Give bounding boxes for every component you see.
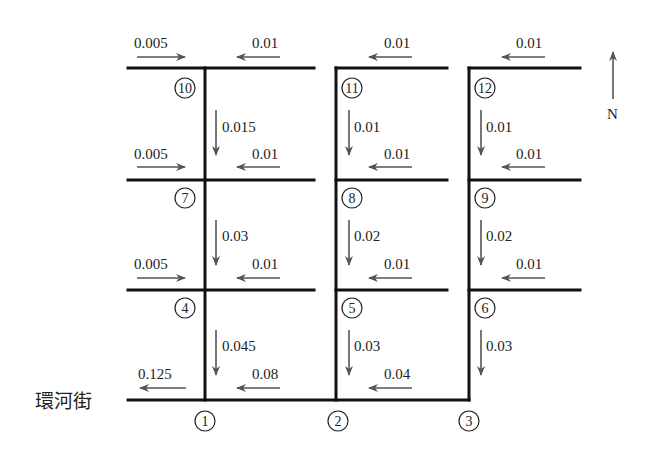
node-1: 1: [195, 411, 215, 431]
flow-label: 0.08: [252, 366, 278, 382]
node-2: 2: [328, 411, 348, 431]
flow-label: 0.015: [222, 119, 256, 135]
node-4: 4: [175, 298, 195, 318]
node-12: 12: [475, 78, 495, 98]
flow-label: 0.01: [384, 146, 410, 162]
flow-label: 0.01: [486, 119, 512, 135]
svg-text:6: 6: [482, 301, 489, 316]
flow-label: 0.01: [384, 256, 410, 272]
node-8: 8: [342, 188, 362, 208]
flow-label: 0.125: [138, 366, 172, 382]
flow-label: 0.03: [486, 338, 512, 354]
flow-label: 0.02: [486, 228, 512, 244]
flow-label: 0.01: [354, 119, 380, 135]
flow-label: 0.005: [134, 146, 168, 162]
node-11: 11: [342, 78, 362, 98]
flow-label: 0.03: [354, 338, 380, 354]
node-9: 9: [475, 188, 495, 208]
svg-text:1: 1: [202, 414, 209, 429]
flow-label: 0.01: [516, 256, 542, 272]
flow-label: 0.005: [134, 35, 168, 51]
node-10: 10: [175, 78, 195, 98]
svg-text:8: 8: [349, 191, 356, 206]
node-7: 7: [175, 188, 195, 208]
street-name-label: 環河街: [35, 390, 92, 412]
flow-label: 0.01: [384, 35, 410, 51]
flow-label: 0.01: [252, 35, 278, 51]
flow-label: 0.02: [354, 228, 380, 244]
flow-label: 0.01: [252, 256, 278, 272]
node-3: 3: [459, 411, 479, 431]
flow-label: 0.045: [222, 338, 256, 354]
node-6: 6: [475, 298, 495, 318]
node-5: 5: [342, 298, 362, 318]
svg-text:2: 2: [335, 414, 342, 429]
svg-text:5: 5: [349, 301, 356, 316]
flow-label: 0.005: [134, 256, 168, 272]
svg-text:9: 9: [482, 191, 489, 206]
svg-text:10: 10: [178, 81, 192, 96]
street-network-diagram: 0.005 0.01 0.01 0.01 0.015 0.01 0.01 0.0…: [0, 0, 650, 461]
north-arrow: N: [607, 52, 618, 122]
svg-text:12: 12: [478, 81, 492, 96]
flow-label: 0.01: [252, 146, 278, 162]
svg-text:7: 7: [182, 191, 189, 206]
svg-text:4: 4: [182, 301, 189, 316]
svg-text:11: 11: [345, 81, 358, 96]
flow-label: 0.01: [516, 35, 542, 51]
flow-label: 0.03: [222, 228, 248, 244]
flow-arrows: [137, 57, 545, 388]
svg-text:3: 3: [466, 414, 473, 429]
flow-label: 0.04: [384, 366, 411, 382]
flow-label: 0.01: [516, 146, 542, 162]
north-label: N: [607, 106, 618, 122]
